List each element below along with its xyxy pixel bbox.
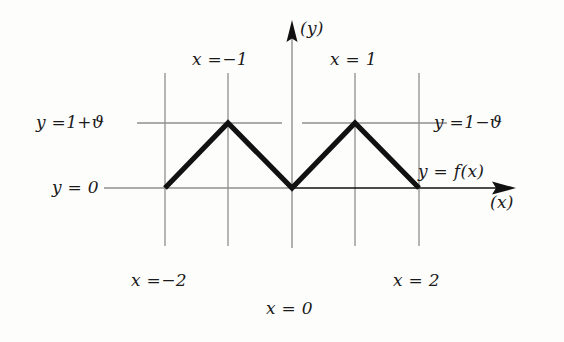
x-axis (292, 182, 516, 195)
y-axis (287, 20, 298, 248)
label-y-upper-left: y =1+ϑ (36, 114, 104, 131)
label-x-pos1: x = 1 (330, 51, 377, 68)
label-x-pos2: x = 2 (393, 272, 440, 289)
axis-label-x: (x) (490, 194, 514, 211)
label-y-zero: y = 0 (52, 179, 99, 196)
label-x-zero: x = 0 (266, 300, 313, 317)
label-x-neg1: x =−1 (192, 51, 248, 68)
label-y-function: y = f(x) (418, 163, 484, 180)
label-y-upper-right: y =1−ϑ (434, 114, 502, 131)
label-x-neg2: x =−2 (131, 272, 187, 289)
axis-label-y: (y) (300, 20, 324, 37)
